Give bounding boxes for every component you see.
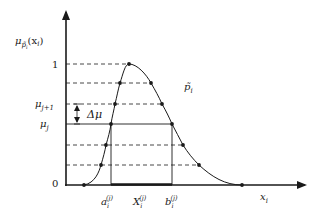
curve-points (82, 62, 244, 187)
y-tick-mu-j1: μj+1 (35, 98, 54, 112)
alpha-cut-box (66, 124, 172, 185)
delta-mu-arrow (74, 104, 80, 124)
delta-mu-label: Δμ (86, 108, 102, 121)
curve-label: p̃i (184, 81, 193, 95)
y-tick-0: 0 (52, 178, 58, 189)
dashed-level-lines (66, 64, 199, 165)
x-axis-label: xi (260, 191, 268, 205)
membership-diagram: Δμ μp̃i(xi) 1 μj+1 μj 0 p̃i ai(j) Xi(j) … (0, 0, 323, 222)
x-label-a: ai(j) (101, 194, 114, 210)
y-tick-mu-j: μj (40, 118, 50, 132)
y-tick-1: 1 (52, 59, 58, 70)
x-label-X: Xi(j) (132, 194, 147, 210)
membership-curve (84, 64, 242, 185)
y-axis-label: μp̃i(xi) (15, 35, 43, 50)
x-label-b: bi(j) (165, 194, 178, 210)
